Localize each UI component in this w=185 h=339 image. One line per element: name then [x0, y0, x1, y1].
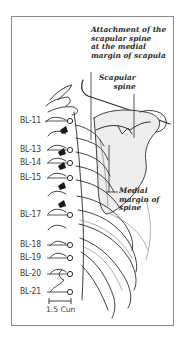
point-label-bl18: BL-18 [20, 239, 41, 249]
annotation-line: margin of scapula [91, 52, 166, 61]
annotation-scapular-spine: Scapular spine [99, 74, 136, 91]
scale-bar-label: 1.5 Cun [46, 305, 75, 314]
point-label-bl20: BL-20 [20, 268, 41, 278]
point-label-bl17: BL-17 [20, 209, 41, 219]
acupoint-markers [67, 118, 72, 294]
point-label-bl15: BL-15 [20, 172, 41, 182]
annotation-line: spine [119, 204, 160, 213]
annotation-attachment: Attachment of the scapular spine at the … [91, 26, 166, 60]
point-label-bl11: BL-11 [20, 115, 41, 125]
annotation-medial-margin: Medial margin of spine [119, 187, 160, 213]
scale-bar [49, 298, 71, 304]
point-label-bl13: BL-13 [20, 144, 41, 154]
point-label-bl14: BL-14 [20, 157, 41, 167]
point-label-bl21: BL-21 [20, 286, 41, 296]
point-label-bl19: BL-19 [20, 252, 41, 262]
annotation-line: spine [99, 83, 136, 92]
